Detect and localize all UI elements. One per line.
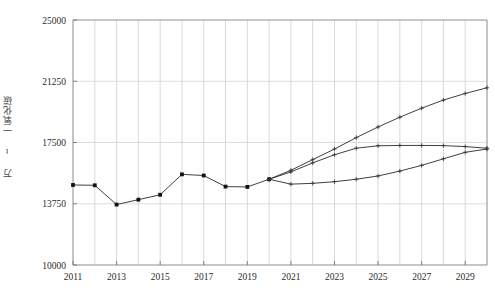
y-tick-label: 17500 bbox=[42, 138, 66, 148]
data-point-marker bbox=[441, 143, 445, 147]
data-point-marker bbox=[224, 185, 228, 189]
data-point-marker bbox=[376, 174, 380, 178]
y-tick-label: 13750 bbox=[42, 199, 66, 209]
data-point-marker bbox=[71, 183, 75, 187]
carbon-monoxide-forecast-chart: 万 t 一氧化碳 1000013750175002125025000 20112… bbox=[0, 0, 495, 294]
data-point-marker bbox=[419, 106, 423, 110]
data-point-marker bbox=[463, 150, 467, 154]
y-tick-label: 21250 bbox=[42, 77, 66, 87]
plot-area: 1000013750175002125025000 20112013201520… bbox=[0, 0, 495, 294]
data-point-marker bbox=[332, 153, 336, 157]
y-tick-label: 25000 bbox=[42, 16, 66, 26]
x-tick-label: 2017 bbox=[194, 272, 213, 282]
data-point-marker bbox=[441, 98, 445, 102]
y-tick-label: 10000 bbox=[42, 261, 66, 271]
data-point-marker bbox=[398, 169, 402, 173]
data-point-marker bbox=[398, 115, 402, 119]
data-point-marker bbox=[463, 91, 467, 95]
data-point-marker bbox=[376, 144, 380, 148]
data-point-marker bbox=[376, 125, 380, 129]
x-tick-label: 2023 bbox=[325, 272, 344, 282]
x-tick-label: 2027 bbox=[412, 272, 431, 282]
data-point-marker bbox=[158, 193, 162, 197]
data-point-marker bbox=[419, 163, 423, 167]
x-tick-label: 2025 bbox=[369, 272, 388, 282]
data-point-marker bbox=[354, 146, 358, 150]
series-layer bbox=[71, 86, 489, 207]
data-point-marker bbox=[354, 177, 358, 181]
data-point-marker bbox=[332, 180, 336, 184]
x-tick-label: 2029 bbox=[456, 272, 475, 282]
x-tick-label: 2019 bbox=[238, 272, 257, 282]
data-point-marker bbox=[354, 135, 358, 139]
x-tick-label: 2013 bbox=[107, 272, 126, 282]
data-point-marker bbox=[180, 172, 184, 176]
data-point-marker bbox=[463, 144, 467, 148]
data-point-marker bbox=[441, 157, 445, 161]
data-point-marker bbox=[310, 161, 314, 165]
data-point-marker bbox=[398, 143, 402, 147]
x-tick-label: 2015 bbox=[151, 272, 170, 282]
data-point-marker bbox=[136, 198, 140, 202]
x-tick-label: 2021 bbox=[281, 272, 300, 282]
data-point-marker bbox=[419, 143, 423, 147]
grid-layer bbox=[73, 20, 487, 265]
series-line-historical bbox=[73, 174, 269, 204]
x-tick-label: 2011 bbox=[64, 272, 83, 282]
data-point-marker bbox=[485, 147, 489, 151]
data-point-marker bbox=[332, 147, 336, 151]
data-point-marker bbox=[310, 181, 314, 185]
data-point-marker bbox=[245, 185, 249, 189]
y-axis-tick-labels: 1000013750175002125025000 bbox=[42, 16, 66, 271]
data-point-marker bbox=[485, 86, 489, 90]
data-point-marker bbox=[115, 203, 119, 207]
data-point-marker bbox=[202, 174, 206, 178]
data-point-marker bbox=[93, 183, 97, 187]
x-axis-tick-labels: 2011201320152017201920212023202520272029 bbox=[64, 272, 475, 282]
data-point-marker bbox=[289, 182, 293, 186]
